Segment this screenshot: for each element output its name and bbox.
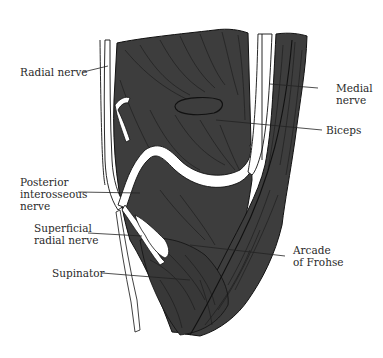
label-medial-nerve: Medial nerve: [336, 82, 373, 106]
label-radial-nerve: Radial nerve: [20, 66, 88, 78]
label-posterior-interosseous-nerve: Posterior interosseous nerve: [20, 176, 87, 212]
label-biceps: Biceps: [326, 124, 361, 136]
label-arcade-of-frohse: Arcade of Frohse: [293, 244, 344, 268]
label-supinator: Supinator: [52, 267, 105, 279]
label-superficial-radial-nerve: Superficial radial nerve: [34, 222, 98, 246]
biceps-tendon: [175, 98, 222, 115]
